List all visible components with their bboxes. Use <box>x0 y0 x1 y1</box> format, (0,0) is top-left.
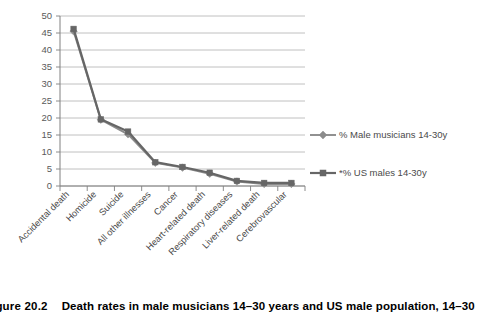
category-labels-group: Accidental deathHomicideSuicideAll other… <box>16 189 289 257</box>
y-axis-tick-label: 30 <box>41 78 52 89</box>
data-point-marker-diamond <box>319 131 327 139</box>
data-point-marker-square <box>125 129 131 135</box>
figure-number: igure 20.2 <box>0 300 48 312</box>
x-axis-category-label: Accidental death <box>16 189 71 244</box>
data-series <box>70 28 295 188</box>
y-axis-tick-label: 15 <box>41 129 52 140</box>
legend-item[interactable]: *% US males 14-30y <box>310 167 427 178</box>
y-axis-tick-label: 35 <box>41 61 52 72</box>
legend-item-label: *% US males 14-30y <box>339 167 427 178</box>
series-line <box>74 31 292 184</box>
y-axis-tick-label: 40 <box>41 44 52 55</box>
y-axis-tick-label: 0 <box>47 180 52 191</box>
chart-plot-area: 05101520253035404550 Accidental deathHom… <box>0 0 490 288</box>
data-point-marker-square <box>320 170 326 176</box>
gridlines-group <box>60 16 305 186</box>
legend-item-label: % Male musicians 14-30y <box>339 129 447 140</box>
y-axis-tick-label: 5 <box>47 163 52 174</box>
y-axis: 05101520253035404550 <box>41 10 60 191</box>
data-point-marker-square <box>234 178 240 184</box>
x-axis <box>60 186 305 191</box>
figure-caption: igure 20.2Death rates in male musicians … <box>0 296 490 318</box>
y-axis-tick-label: 20 <box>41 112 52 123</box>
chart-legend: % Male musicians 14-30y*% US males 14-30… <box>310 129 447 178</box>
data-point-marker-square <box>261 180 267 186</box>
legend-item[interactable]: % Male musicians 14-30y <box>310 129 447 140</box>
y-axis-tick-label: 45 <box>41 27 52 38</box>
data-point-marker-square <box>180 164 186 170</box>
x-axis-category-label: Homicide <box>64 189 98 223</box>
data-point-marker-square <box>71 26 77 32</box>
x-axis-category-label: Cerebrovascular <box>234 189 289 244</box>
y-axis-tick-label: 50 <box>41 10 52 21</box>
line-chart: 05101520253035404550 Accidental deathHom… <box>0 0 490 288</box>
y-axis-tick-label: 25 <box>41 95 52 106</box>
data-point-marker-square <box>289 180 295 186</box>
data-point-marker-square <box>207 170 213 176</box>
data-point-marker-square <box>152 159 158 165</box>
series-line <box>74 29 292 183</box>
figure-caption-text: Death rates in male musicians 14–30 year… <box>62 300 475 312</box>
y-axis-tick-label: 10 <box>41 146 52 157</box>
figure-container: 05101520253035404550 Accidental deathHom… <box>0 0 490 321</box>
data-point-marker-square <box>98 117 104 123</box>
